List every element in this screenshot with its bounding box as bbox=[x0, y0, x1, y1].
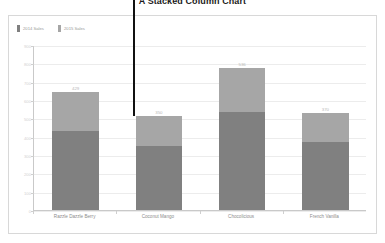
y-axis-tick-label: 100 bbox=[24, 190, 31, 195]
bar-segment-2015[interactable] bbox=[52, 92, 99, 131]
y-axis-tick-label: 500 bbox=[24, 117, 31, 122]
bar-series: 429350536370 bbox=[34, 46, 366, 210]
legend-item-2014[interactable]: 2014 Sales bbox=[17, 25, 44, 32]
chart-screenshot: A Stacked Column Chart 2014 Sales 2015 S… bbox=[0, 0, 385, 243]
plot-area: 9008007006005004003002001000 42935053637… bbox=[33, 46, 366, 211]
bar-segment-2014[interactable] bbox=[302, 142, 349, 210]
y-axis-tick-label: 400 bbox=[24, 135, 31, 140]
bar-segment-2015[interactable] bbox=[302, 113, 349, 142]
legend-swatch-2014 bbox=[17, 25, 20, 32]
legend-swatch-2015 bbox=[58, 25, 61, 32]
chart-title: A Stacked Column Chart bbox=[0, 0, 385, 6]
vertical-pointer-line bbox=[133, 0, 135, 116]
x-axis-category-label: Chocolicious bbox=[228, 214, 254, 219]
x-axis-category-label: Coconut Mango bbox=[142, 214, 174, 219]
x-axis-tick-mark bbox=[200, 211, 201, 214]
bar-column[interactable]: 536 bbox=[219, 68, 266, 210]
bar-segment-2014[interactable] bbox=[136, 146, 183, 210]
x-axis-tick-mark bbox=[116, 211, 117, 214]
bar-column[interactable]: 350 bbox=[136, 116, 183, 210]
y-axis-tick-label: 200 bbox=[24, 172, 31, 177]
x-axis-labels: Razzle Dazzle BerryCoconut MangoChocolic… bbox=[33, 214, 366, 226]
bar-segment-2014[interactable] bbox=[219, 112, 266, 210]
x-axis-category-label: French Vanilla bbox=[310, 214, 339, 219]
bar-segment-2015[interactable] bbox=[219, 68, 266, 112]
y-axis-tick-label: 300 bbox=[24, 154, 31, 159]
bar-data-label: 536 bbox=[238, 62, 245, 67]
chart-legend: 2014 Sales 2015 Sales bbox=[17, 25, 85, 32]
bar-column[interactable]: 370 bbox=[302, 113, 349, 210]
bar-data-label: 370 bbox=[322, 107, 329, 112]
y-axis-tick-label: 600 bbox=[24, 99, 31, 104]
y-axis-tick-label: 900 bbox=[24, 44, 31, 49]
legend-label-2015: 2015 Sales bbox=[64, 25, 85, 32]
legend-item-2015[interactable]: 2015 Sales bbox=[58, 25, 85, 32]
bar-segment-2014[interactable] bbox=[52, 131, 99, 210]
chart-frame: 2014 Sales 2015 Sales 900800700600500400… bbox=[8, 15, 377, 234]
x-axis-category-label: Razzle Dazzle Berry bbox=[54, 214, 96, 219]
bar-segment-2015[interactable] bbox=[136, 116, 183, 146]
y-axis-tick-label: 800 bbox=[24, 62, 31, 67]
bar-data-label: 350 bbox=[155, 110, 162, 115]
x-axis-tick-mark bbox=[33, 211, 34, 214]
y-axis-tick-label: 700 bbox=[24, 80, 31, 85]
legend-label-2014: 2014 Sales bbox=[23, 25, 44, 32]
x-axis-tick-mark bbox=[283, 211, 284, 214]
bar-column[interactable]: 429 bbox=[52, 92, 99, 210]
bar-data-label: 429 bbox=[72, 86, 79, 91]
